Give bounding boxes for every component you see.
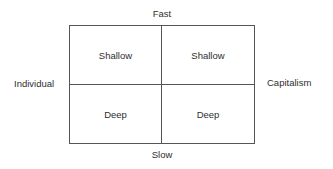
quadrant-label: Shallow — [99, 50, 132, 61]
quadrant-label: Shallow — [191, 50, 224, 61]
quadrant-bottom-left: Deep — [70, 85, 162, 143]
axis-label-top: Fast — [153, 9, 171, 19]
axis-label-left: Individual — [14, 79, 54, 89]
axis-label-bottom: Slow — [152, 150, 173, 160]
quadrant-bottom-right: Deep — [162, 85, 254, 143]
quadrant-label: Deep — [104, 109, 127, 120]
quadrant-top-right: Shallow — [162, 26, 254, 85]
quadrant-top-left: Shallow — [70, 26, 162, 85]
axis-label-right: Capitalism — [267, 78, 311, 88]
quadrant-matrix: Shallow Shallow Deep Deep — [69, 25, 255, 144]
quadrant-label: Deep — [197, 109, 220, 120]
